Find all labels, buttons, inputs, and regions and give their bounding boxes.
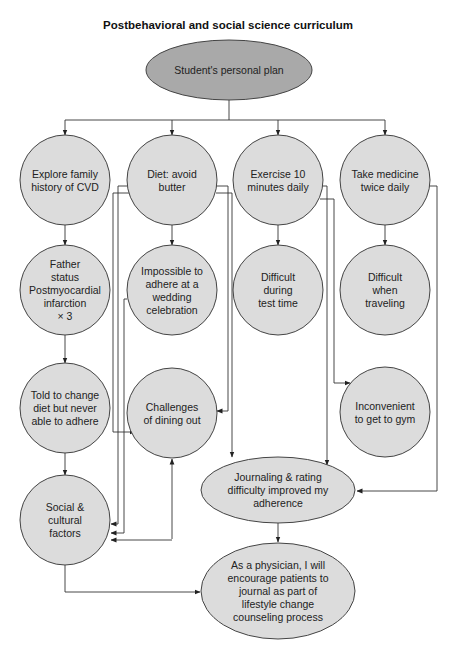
node-label-line: Difficult <box>261 271 295 283</box>
node-label-line: infarction <box>44 297 87 309</box>
node-label-line: × 3 <box>58 310 73 322</box>
node-journaling: Journaling & ratingdifficulty improved m… <box>201 457 355 523</box>
node-gym: Inconvenientto get to gym <box>340 367 430 457</box>
node-label-line: Social & <box>46 501 85 513</box>
node-label-line: Father <box>50 258 81 270</box>
node-label-line: during <box>263 284 292 296</box>
node-dining-out: Challengesof dining out <box>127 368 217 458</box>
edge-diet-journaling <box>216 193 232 457</box>
node-label-line: Journaling & rating <box>234 471 322 483</box>
node-label-line: adherence <box>253 497 303 509</box>
node-label-line: to get to gym <box>355 413 416 425</box>
node-family-history: Explore familyhistory of CVD <box>20 135 110 225</box>
node-traveling: Difficultwhentraveling <box>340 245 430 335</box>
node-label-line: Told to change <box>31 389 99 401</box>
nodes: Student's personal planExplore familyhis… <box>20 40 430 639</box>
node-label-line: wedding <box>151 291 191 303</box>
node-label-line: status <box>51 271 79 283</box>
node-label-line: when <box>371 284 397 296</box>
node-label-line: As a physician, I will <box>231 559 325 571</box>
edge-social-physician <box>65 565 200 592</box>
node-label-line: lifestyle change <box>242 598 315 610</box>
node-label-line: butter <box>159 181 186 193</box>
node-label-line: of dining out <box>143 414 200 426</box>
node-label-line: cultural <box>48 514 82 526</box>
node-label-line: able to adhere <box>31 415 98 427</box>
node-label-line: Student's personal plan <box>174 64 284 76</box>
node-label-line: test time <box>258 297 298 309</box>
node-physician: As a physician, I willencourage patients… <box>201 543 355 639</box>
node-test-time: Difficultduringtest time <box>233 245 323 335</box>
edge-diet-dining <box>216 186 228 411</box>
node-label-line: Impossible to <box>141 265 203 277</box>
node-diet: Diet: avoidbutter <box>127 135 217 225</box>
node-root: Student's personal plan <box>146 40 312 100</box>
node-label-line: encourage patients to <box>228 572 329 584</box>
node-wedding: Impossible toadhere at aweddingcelebrati… <box>127 245 217 335</box>
node-label-line: diet but never <box>33 402 97 414</box>
node-label-line: Challenges <box>146 401 199 413</box>
node-told-change: Told to changediet but neverable to adhe… <box>20 363 110 453</box>
node-label-line: adhere at a <box>145 278 198 290</box>
node-label-line: Take medicine <box>351 168 418 180</box>
node-label-line: Inconvenient <box>355 400 415 412</box>
node-label-line: difficulty improved my <box>228 484 330 496</box>
node-social: Social &culturalfactors <box>20 475 110 565</box>
node-label-line: history of CVD <box>31 181 99 193</box>
flow-diagram: Postbehavioral and social science curric… <box>0 0 455 651</box>
node-label-line: celebration <box>146 304 198 316</box>
node-label-line: Difficult <box>368 271 402 283</box>
node-label-line: Explore family <box>32 168 99 180</box>
node-label-line: minutes daily <box>247 181 309 193</box>
node-label-line: Postmyocardial <box>29 284 101 296</box>
diagram-title: Postbehavioral and social science curric… <box>103 19 353 31</box>
node-label-line: Diet: avoid <box>147 168 197 180</box>
node-label-line: journal as part of <box>238 585 317 597</box>
node-label-line: counseling process <box>233 611 323 623</box>
node-exercise: Exercise 10minutes daily <box>233 135 323 225</box>
node-medicine: Take medicinetwice daily <box>340 135 430 225</box>
node-label-line: factors <box>49 527 81 539</box>
node-label-line: twice daily <box>361 181 410 193</box>
node-father-status: FatherstatusPostmyocardialinfarction× 3 <box>20 245 110 335</box>
node-label-line: traveling <box>365 297 405 309</box>
node-label-line: Exercise 10 <box>251 168 306 180</box>
edge-exercise-journaling <box>322 186 327 465</box>
